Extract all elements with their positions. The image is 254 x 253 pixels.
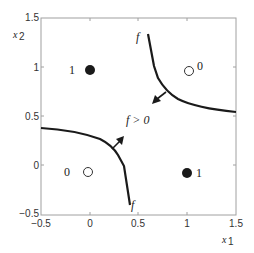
upper-curve-label: f xyxy=(136,30,141,44)
x-tick-0: 0 xyxy=(87,218,93,229)
point-1-1-open xyxy=(185,67,194,76)
upper-normal-arrow-icon xyxy=(152,92,166,104)
svg-text:x: x xyxy=(221,234,227,245)
point-0-0-open xyxy=(84,168,93,177)
x-tick--0.5: −0.5 xyxy=(31,218,51,229)
region-label-f-positive: f > 0 xyxy=(126,113,149,127)
y-tick-0.5: 0.5 xyxy=(25,111,39,122)
lower-curve-label: f xyxy=(131,198,136,212)
svg-text:x: x xyxy=(12,29,18,40)
lower-normal-arrow-icon xyxy=(112,136,124,149)
point-0-0-label: 0 xyxy=(64,165,70,179)
x-tick-1: 1 xyxy=(184,218,190,229)
point-1-0-label: 1 xyxy=(196,166,202,180)
svg-text:2: 2 xyxy=(19,31,25,42)
x-tick-1.5: 1.5 xyxy=(229,218,243,229)
y-axis-label: x 2 xyxy=(12,29,25,42)
svg-text:1: 1 xyxy=(228,236,234,247)
point-1-1-label: 0 xyxy=(197,59,203,73)
y-tick-0: 0 xyxy=(33,160,39,171)
y-tick-1.5: 1.5 xyxy=(25,12,39,23)
point-1-0-filled xyxy=(182,168,192,178)
xor-decision-boundary-diagram: 1.5 1 0.5 0 −0.5 −0.5 0 0.5 1 1.5 x 2 x … xyxy=(0,0,254,253)
y-tick-1: 1 xyxy=(33,62,39,73)
x-tick-0.5: 0.5 xyxy=(131,218,145,229)
x-axis-label: x 1 xyxy=(221,234,234,247)
point-0-1-label: 1 xyxy=(69,63,75,77)
point-0-1-filled xyxy=(85,65,95,75)
